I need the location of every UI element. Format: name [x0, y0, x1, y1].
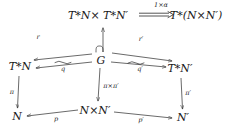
edge-label-pi-prime: π′ [185, 90, 191, 97]
edge-label-q-prime: q′ [137, 66, 143, 73]
arrow-r [34, 54, 92, 60]
arrow-inclusion-hooked [96, 28, 103, 52]
node-nprime: N′ [177, 112, 189, 123]
arrow-pi [18, 76, 20, 108]
edge-label-q: q [61, 66, 65, 73]
arrow-iso-top [139, 12, 173, 18]
edge-label-pi: π [10, 89, 14, 96]
edge-label-r-prime: r′ [139, 36, 144, 43]
node-n-times-nprime: N×N′ [80, 105, 111, 116]
edge-label-r: r [36, 34, 39, 41]
node-t-star-n: T*N [9, 61, 31, 72]
edge-label-pi-times-pi-prime: π×π′ [103, 83, 118, 90]
edge-label-p: p [54, 116, 58, 123]
edge-label-iso-top: 1×α [154, 2, 168, 9]
arrow-r-prime [112, 53, 172, 61]
arrow-pi-prime [181, 78, 183, 109]
arrow-pi-times-pi-prime [98, 68, 100, 101]
node-tn-times-tnprime: T*N× T*N′ [68, 10, 128, 21]
commutative-diagram: T*N× T*N′ T*(N×N′) T*N G T*N′ N N×N′ N′ … [0, 0, 231, 127]
node-t-star-nprime: T*N′ [168, 63, 193, 74]
node-n: N [12, 111, 22, 122]
arrow-p [27, 110, 78, 116]
node-t-star-n-times-nprime: T*(N×N′) [170, 10, 222, 21]
node-g: G [97, 55, 106, 66]
edge-label-p-prime: p′ [138, 117, 144, 124]
